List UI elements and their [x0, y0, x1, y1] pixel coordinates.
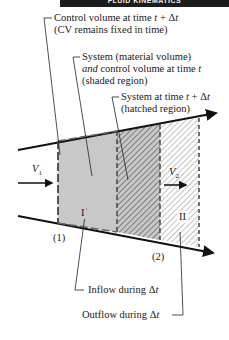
- label-section-1: (1): [53, 232, 65, 244]
- label-inflow: Inflow during Δt: [88, 284, 158, 296]
- label-section-2: (2): [152, 251, 164, 263]
- leader-outflow: [172, 232, 183, 315]
- label-v2: V2: [169, 166, 179, 182]
- label-region-ii: II: [177, 211, 188, 223]
- region-ii-hatched: [160, 118, 199, 247]
- label-outflow: Outflow during Δt: [82, 309, 159, 321]
- label-system-t-dt: System at time t + Δt (hatched region): [121, 91, 210, 115]
- label-control-volume: Control volume at time t + Δt (CV remain…: [54, 12, 178, 36]
- label-region-i: I: [80, 207, 86, 219]
- leader-control-volume: [44, 18, 60, 155]
- label-system: System (material volume) and control vol…: [82, 51, 201, 87]
- label-v1: V1: [32, 163, 42, 179]
